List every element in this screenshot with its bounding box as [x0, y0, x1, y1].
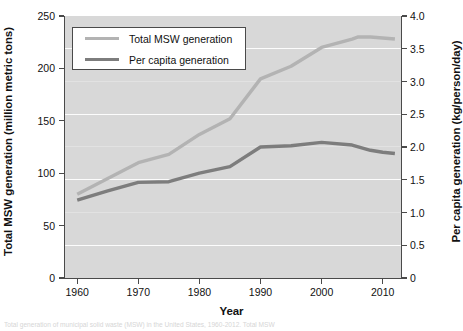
- axis-tick: [402, 146, 407, 147]
- y-axis-left-tick-label: 250: [37, 10, 55, 22]
- axis-tick: [59, 15, 64, 16]
- legend-label: Total MSW generation: [129, 33, 232, 45]
- x-axis-tick-label: 1980: [188, 286, 211, 298]
- y-axis-right-tick-label: 3.5: [410, 43, 425, 55]
- y-axis-left-tick-label: 150: [37, 115, 55, 127]
- x-axis-tick-label: 2010: [371, 286, 394, 298]
- x-axis-tick-label: 1990: [249, 286, 272, 298]
- axis-tick: [77, 279, 78, 284]
- legend-label: Per capita generation: [129, 54, 229, 66]
- axis-tick: [59, 173, 64, 174]
- axis-tick: [402, 245, 407, 246]
- y-axis-left-tick-label: 50: [43, 220, 55, 232]
- y-axis-right-tick-label: 4.0: [410, 10, 425, 22]
- y-axis-left-tick-label: 200: [37, 62, 55, 74]
- y-axis-right-tick-label: 3.0: [410, 76, 425, 88]
- y-axis-left-tick-label: 100: [37, 167, 55, 179]
- axis-tick: [402, 15, 407, 16]
- y-axis-right-tick-label: 2.5: [410, 108, 425, 120]
- legend-color-swatch: [85, 58, 119, 61]
- axis-tick: [402, 212, 407, 213]
- axis-tick: [382, 279, 383, 284]
- y-axis-right-tick-label: 1.0: [410, 207, 425, 219]
- x-axis-title: Year: [0, 305, 463, 317]
- legend-item: Total MSW generation: [73, 28, 245, 49]
- y-axis-right-title: Per capita generation (kg/person/day): [448, 0, 463, 283]
- x-axis-tick-label: 2000: [310, 286, 333, 298]
- x-axis-tick-label: 1970: [127, 286, 150, 298]
- legend-item: Per capita generation: [73, 49, 245, 70]
- y-axis-left-title: Total MSW generation (million metric ton…: [0, 0, 16, 283]
- axis-tick: [59, 68, 64, 69]
- axis-tick: [321, 279, 322, 284]
- y-axis-right-tick-label: 0: [410, 272, 416, 284]
- y-axis-left-tick-label: 0: [49, 272, 55, 284]
- chart-legend: Total MSW generationPer capita generatio…: [72, 27, 246, 70]
- axis-tick: [402, 114, 407, 115]
- x-axis-tick-label: 1960: [66, 286, 89, 298]
- axis-tick: [59, 120, 64, 121]
- axis-tick: [402, 179, 407, 180]
- figure-caption: Total generation of municipal solid wast…: [4, 321, 459, 329]
- axis-tick: [402, 48, 407, 49]
- y-axis-right-tick-label: 0.5: [410, 239, 425, 251]
- chart-figure: Total MSW generation (million metric ton…: [0, 0, 463, 331]
- legend-color-swatch: [85, 37, 119, 40]
- axis-tick: [59, 225, 64, 226]
- axis-spine-left: [64, 16, 65, 278]
- axis-tick: [59, 277, 64, 278]
- axis-tick: [402, 277, 407, 278]
- axis-tick: [138, 279, 139, 284]
- axis-tick: [260, 279, 261, 284]
- y-axis-right-tick-label: 2.0: [410, 141, 425, 153]
- axis-spine-bottom: [64, 278, 402, 279]
- axis-tick: [199, 279, 200, 284]
- y-axis-right-tick-label: 1.5: [410, 174, 425, 186]
- axis-tick: [402, 81, 407, 82]
